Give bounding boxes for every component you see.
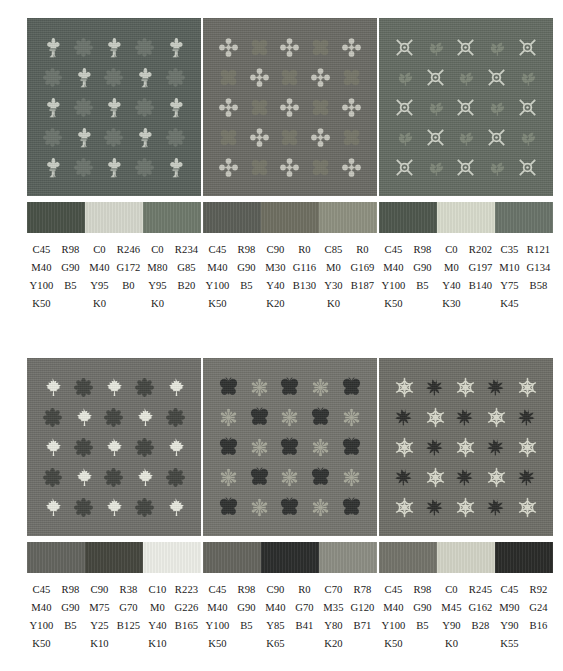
rgb-value: G24: [524, 602, 553, 613]
rgb-value: R0: [348, 244, 377, 255]
spacer: [524, 298, 553, 309]
rgb-value: B5: [232, 620, 261, 631]
cmyk-value: M0: [143, 602, 172, 613]
cmyk-value: M40: [379, 602, 408, 613]
rgb-value: B20: [172, 280, 201, 291]
swatch-sheet: C45 R98 C0 R246 C0 R234 M40 G90 M40 G172…: [0, 0, 563, 671]
rgb-value: B71: [348, 620, 377, 631]
rgb-value: B125: [114, 620, 143, 631]
rgb-value: G197: [466, 262, 495, 273]
fabric-texture-overlay-3: [379, 18, 553, 196]
rgb-value: G226: [172, 602, 201, 613]
cmyk-value: K45: [495, 298, 524, 309]
rgb-value: G172: [114, 262, 143, 273]
cmyk-value: C0: [85, 244, 114, 255]
cmyk-value: Y100: [27, 620, 56, 631]
cmyk-value: C90: [261, 584, 290, 595]
color-bar-segment: [495, 542, 553, 573]
rgb-value: B58: [524, 280, 553, 291]
color-bar-segment: [319, 202, 377, 233]
color-values-3: C45 R98 C0 R202 C35 R121 M40 G90 M0 G197…: [379, 244, 553, 309]
fabric-image-6: [379, 358, 553, 536]
color-bar-segment: [203, 202, 261, 233]
rgb-value: R246: [114, 244, 143, 255]
rgb-value: B5: [408, 280, 437, 291]
color-bar-5: [203, 542, 377, 573]
rgb-value: G90: [232, 262, 261, 273]
rgb-value: B41: [290, 620, 319, 631]
spacer: [408, 638, 437, 649]
spacer: [56, 298, 85, 309]
spacer: [290, 298, 319, 309]
rgb-value: R245: [466, 584, 495, 595]
fabric-image-5: [203, 358, 377, 536]
cmyk-value: C0: [437, 244, 466, 255]
fabric-texture-overlay-1: [27, 18, 201, 196]
cmyk-value: C85: [319, 244, 348, 255]
cmyk-value: C45: [379, 244, 408, 255]
cmyk-value: Y100: [379, 620, 408, 631]
cmyk-value: M10: [495, 262, 524, 273]
cmyk-value: Y75: [495, 280, 524, 291]
color-bar-segment: [437, 542, 495, 573]
color-values-1: C45 R98 C0 R246 C0 R234 M40 G90 M40 G172…: [27, 244, 201, 309]
cmyk-value: K30: [437, 298, 466, 309]
cmyk-value: M40: [203, 602, 232, 613]
cmyk-value: K0: [319, 298, 348, 309]
color-bar-segment: [143, 542, 201, 573]
fabric-texture-overlay-2: [203, 18, 377, 196]
cmyk-value: Y95: [143, 280, 172, 291]
cmyk-value: M30: [261, 262, 290, 273]
cmyk-value: C45: [203, 584, 232, 595]
cmyk-value: K50: [203, 638, 232, 649]
cmyk-value: C0: [437, 584, 466, 595]
color-bar-segment: [85, 202, 143, 233]
spacer: [290, 638, 319, 649]
swatch-block-3: C45 R98 C0 R202 C35 R121 M40 G90 M0 G197…: [379, 18, 553, 309]
fabric-image-3: [379, 18, 553, 196]
rgb-value: R98: [56, 584, 85, 595]
rgb-value: R98: [408, 584, 437, 595]
rgb-value: R0: [290, 244, 319, 255]
fabric-image-4: [27, 358, 201, 536]
rgb-value: R234: [172, 244, 201, 255]
color-values-4: C45 R98 C90 R38 C10 R223 M40 G90 M75 G70…: [27, 584, 201, 649]
color-bar-segment: [379, 202, 437, 233]
rgb-value: R0: [290, 584, 319, 595]
cmyk-value: K50: [379, 298, 408, 309]
cmyk-value: Y40: [143, 620, 172, 631]
cmyk-value: Y95: [85, 280, 114, 291]
rgb-value: R98: [232, 244, 261, 255]
cmyk-value: K50: [379, 638, 408, 649]
spacer: [348, 298, 377, 309]
cmyk-value: K0: [437, 638, 466, 649]
spacer: [466, 298, 495, 309]
cmyk-value: C45: [379, 584, 408, 595]
cmyk-value: Y25: [85, 620, 114, 631]
cmyk-value: M80: [143, 262, 172, 273]
cmyk-value: Y90: [437, 620, 466, 631]
swatch-block-6: C45 R98 C0 R245 C45 R92 M40 G90 M45 G162…: [379, 358, 553, 649]
cmyk-value: K20: [319, 638, 348, 649]
cmyk-value: Y80: [319, 620, 348, 631]
cmyk-value: M40: [27, 262, 56, 273]
cmyk-value: Y100: [203, 280, 232, 291]
rgb-value: G85: [172, 262, 201, 273]
cmyk-value: Y30: [319, 280, 348, 291]
spacer: [172, 298, 201, 309]
spacer: [172, 638, 201, 649]
cmyk-value: K10: [143, 638, 172, 649]
rgb-value: G169: [348, 262, 377, 273]
rgb-value: R78: [348, 584, 377, 595]
spacer: [348, 638, 377, 649]
cmyk-value: M40: [203, 262, 232, 273]
rgb-value: R202: [466, 244, 495, 255]
swatch-block-2: C45 R98 C90 R0 C85 R0 M40 G90 M30 G116 M…: [203, 18, 377, 309]
rgb-value: G90: [408, 602, 437, 613]
cmyk-value: M40: [261, 602, 290, 613]
color-bar-segment: [27, 542, 85, 573]
cmyk-value: Y40: [261, 280, 290, 291]
cmyk-value: C70: [319, 584, 348, 595]
cmyk-value: M35: [319, 602, 348, 613]
cmyk-value: K65: [261, 638, 290, 649]
